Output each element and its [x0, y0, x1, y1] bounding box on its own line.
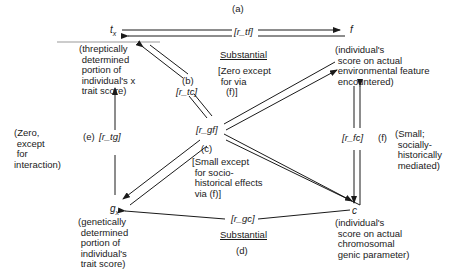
edge-d-coef: [r_gc]: [231, 214, 255, 225]
edge-b-note: [Zero except for via (f)]: [218, 66, 271, 98]
node-c: c: [352, 205, 357, 216]
edge-b-coef: [r_tc]: [176, 87, 197, 98]
edge-e-coef: [r_tg]: [99, 132, 121, 143]
edge-a-coef: [r_tf]: [234, 27, 253, 38]
edge-e-letter: (e): [83, 132, 95, 143]
node-f-description: (individual's score on actual environmen…: [335, 45, 430, 87]
node-g-description: (genetically determined portion of indiv…: [78, 217, 128, 270]
node-t: tx: [110, 24, 116, 37]
edge-a-note: Substantial: [220, 50, 267, 61]
edge-a-letter: (a): [232, 4, 244, 15]
edge-e-note: (Zero, except for interaction): [14, 128, 61, 170]
edge-f-note: (Small; socially- historically mediated): [395, 129, 442, 171]
node-f: f: [350, 24, 353, 35]
edge-c-note: [Small except for socio- historical effe…: [192, 157, 263, 199]
edge-c-letter: (c): [201, 144, 212, 155]
edge-b-letter: (b): [182, 76, 194, 87]
node-t-description: (threptically determined portion of indi…: [79, 44, 135, 97]
node-c-description: (individual's score on actual chromosoma…: [335, 218, 409, 260]
edge-c-coef: [r_gf]: [196, 125, 218, 136]
edge-d-letter: (d): [236, 246, 248, 257]
node-g: gx: [110, 203, 119, 216]
edge-d-note: Substantial: [220, 230, 267, 241]
edge-f-coef: [r_fc]: [342, 133, 363, 144]
edge-f-letter: (f): [378, 133, 387, 144]
